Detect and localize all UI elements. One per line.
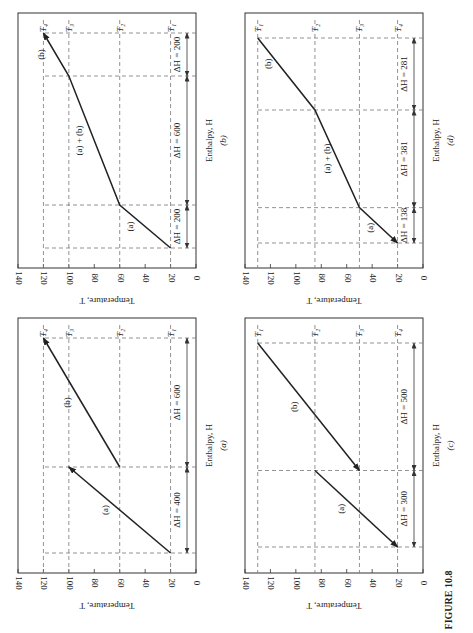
panel-c-chart: 020406080100120140Temperature, TT₁T₂T₃T₄… xyxy=(241,318,455,611)
tick-label: 20 xyxy=(167,579,177,589)
tick-label: 0 xyxy=(419,276,429,281)
tick-label: 40 xyxy=(368,579,378,589)
curve-stream-a xyxy=(315,471,398,548)
tick-label: 120 xyxy=(266,271,276,285)
delta-h-label: ΔH = 500 xyxy=(399,389,409,425)
delta-h-label: ΔH = 381 xyxy=(399,141,409,176)
segment-label: (a) xyxy=(125,222,135,232)
level-label-t1: T₁ xyxy=(166,329,176,337)
tick-label: 80 xyxy=(317,274,327,284)
figure-10-8: 020406080100120140Temperature, TT₁T₂T₃T₄… xyxy=(0,0,473,633)
tick-label: 140 xyxy=(14,271,24,285)
panel-caption: (b) xyxy=(218,135,228,146)
delta-h-label: ΔH = 400 xyxy=(172,492,182,528)
tick-label: 40 xyxy=(141,579,151,589)
tick-label: 0 xyxy=(192,276,202,281)
segment-label: (a) xyxy=(365,223,375,233)
panel-a-chart: 020406080100120140Temperature, TT₁T₂T₃T₄… xyxy=(14,318,228,611)
tick-label: 20 xyxy=(394,274,404,284)
tick-label: 60 xyxy=(343,274,353,284)
panel-b-chart: 020406080100120140Temperature, TT₁T₂T₃T₄… xyxy=(14,13,228,306)
level-label-t4: T₄ xyxy=(393,24,403,32)
panel-caption: (c) xyxy=(445,441,455,451)
level-label-t3: T₃ xyxy=(354,24,364,32)
tick-label: 100 xyxy=(292,271,302,285)
segment-label: (b) xyxy=(263,58,273,69)
delta-h-label: ΔH = 600 xyxy=(172,384,182,420)
stream-label: (a) xyxy=(336,504,346,514)
panel-caption: (a) xyxy=(218,440,228,451)
x-axis-label: Enthalpy, H xyxy=(204,424,214,467)
level-label-t3: T₃ xyxy=(64,24,74,32)
y-axis-label: Temperature, T xyxy=(79,296,135,306)
panel-caption: (d) xyxy=(445,135,455,146)
tick-label: 120 xyxy=(266,576,276,590)
level-label-t4: T₄ xyxy=(38,329,48,337)
delta-h-label: ΔH = 281 xyxy=(399,56,409,91)
curve-stream-b xyxy=(43,338,119,467)
tick-label: 80 xyxy=(317,579,327,589)
level-label-t2: T₂ xyxy=(115,24,125,32)
tick-label: 100 xyxy=(65,271,75,285)
delta-h-label: ΔH = 138 xyxy=(399,207,409,243)
tick-label: 140 xyxy=(14,576,24,590)
tick-label: 40 xyxy=(141,274,151,284)
curve-composite xyxy=(258,38,398,243)
figure-title: FIGURE 10.8 xyxy=(443,571,454,630)
tick-label: 120 xyxy=(39,576,49,590)
tick-label: 0 xyxy=(419,581,429,586)
tick-label: 60 xyxy=(116,579,126,589)
tick-label: 0 xyxy=(192,581,202,586)
delta-h-label: ΔH = 600 xyxy=(172,122,182,158)
tick-label: 120 xyxy=(39,271,49,285)
level-label-t2: T₂ xyxy=(115,329,125,337)
segment-label: (a) + (b) xyxy=(322,143,332,173)
y-axis-label: Temperature, T xyxy=(79,601,135,611)
level-label-t3: T₃ xyxy=(64,329,74,337)
y-axis-label: Temperature, T xyxy=(306,296,362,306)
tick-label: 40 xyxy=(368,274,378,284)
x-axis-label: Enthalpy, H xyxy=(431,424,441,467)
panel-d-chart: 020406080100120140Temperature, TT₁T₂T₃T₄… xyxy=(241,13,455,306)
delta-h-label: ΔH = 300 xyxy=(399,491,409,527)
stream-label: (b) xyxy=(62,397,72,408)
segment-label: (b) xyxy=(36,49,46,60)
tick-label: 60 xyxy=(116,274,126,284)
curve-composite xyxy=(43,33,170,248)
level-label-t1: T₁ xyxy=(253,24,263,32)
level-label-t4: T₄ xyxy=(393,329,403,337)
level-label-t4: T₄ xyxy=(38,24,48,32)
level-label-t2: T₂ xyxy=(310,329,320,337)
plot-frame xyxy=(245,318,423,573)
tick-label: 140 xyxy=(241,271,251,285)
y-axis-label: Temperature, T xyxy=(306,601,362,611)
x-axis-label: Enthalpy, H xyxy=(431,119,441,162)
segment-label: (a) + (b) xyxy=(74,125,84,155)
level-label-t2: T₂ xyxy=(310,24,320,32)
level-label-t1: T₁ xyxy=(253,329,263,337)
tick-label: 100 xyxy=(65,576,75,590)
stream-label: (b) xyxy=(289,402,299,413)
tick-label: 80 xyxy=(90,274,100,284)
plot-frame xyxy=(245,13,423,268)
level-label-t1: T₁ xyxy=(166,24,176,32)
delta-h-label: ΔH = 200 xyxy=(172,208,182,244)
tick-label: 140 xyxy=(241,576,251,590)
curve-stream-b xyxy=(258,343,360,471)
tick-label: 100 xyxy=(292,576,302,590)
tick-label: 80 xyxy=(90,579,100,589)
tick-label: 20 xyxy=(394,579,404,589)
tick-label: 60 xyxy=(343,579,353,589)
delta-h-label: ΔH = 200 xyxy=(172,36,182,72)
stream-label: (a) xyxy=(100,505,110,515)
tick-label: 20 xyxy=(167,274,177,284)
level-label-t3: T₃ xyxy=(354,329,364,337)
x-axis-label: Enthalpy, H xyxy=(204,119,214,162)
